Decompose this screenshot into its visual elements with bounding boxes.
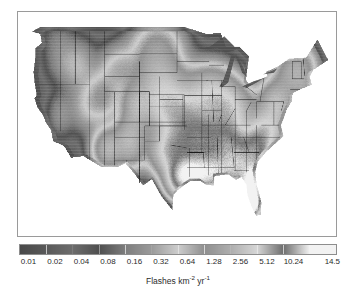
lightning-flash-density-figure: 0.010.020.040.080.160.320.641.282.565.12… [0,0,352,290]
colorbar-gradient [20,245,336,254]
colorbar-axis-label-text: Flashes km [146,276,189,286]
colorbar-tick-label: 0.64 [180,257,195,266]
colorbar-axis-label-sup2: -1 [204,274,210,281]
colorbar [19,244,337,255]
colorbar-tick-label: 0.16 [127,257,142,266]
colorbar-tick-label: 10.24 [284,257,304,266]
colorbar-tick-label: 0.08 [100,257,115,266]
colorbar-axis-label: Flashes km-2 yr-1 [19,274,337,286]
colorbar-tick-label: 0.32 [153,257,168,266]
colorbar-tick-label: 0.04 [74,257,89,266]
colorbar-tick-label: 2.56 [233,257,248,266]
map-panel [17,11,337,237]
colorbar-tick-label: 0.01 [21,257,36,266]
flash-density-map-canvas [18,12,336,236]
colorbar-tick-label: 5.12 [259,257,274,266]
colorbar-tick-label: 14.5 [325,257,340,266]
colorbar-tick-labels: 0.010.020.040.080.160.320.641.282.565.12… [19,257,337,270]
colorbar-tick-label: 0.02 [47,257,62,266]
colorbar-group: 0.010.020.040.080.160.320.641.282.565.12… [19,244,337,286]
colorbar-tick-label: 1.28 [206,257,221,266]
